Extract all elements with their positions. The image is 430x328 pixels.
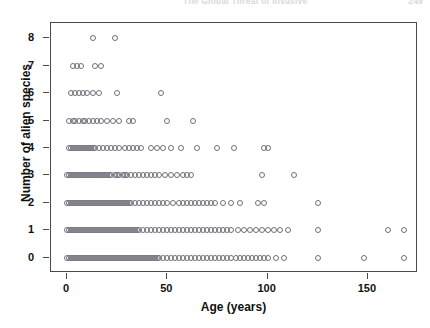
y-tick-mark: [43, 120, 49, 121]
scatter-plot-figure: The Global Threat of Invasive 249 012345…: [0, 0, 430, 328]
x-tick-label: 50: [160, 283, 172, 294]
x-tick-label: 0: [63, 283, 69, 294]
y-tick-mark: [43, 229, 49, 230]
x-tick-mark: [66, 273, 67, 279]
y-tick-mark: [43, 37, 49, 38]
x-axis-title: Age (years): [50, 300, 417, 314]
y-tick-mark: [43, 147, 49, 148]
x-tick-label: 150: [358, 283, 376, 294]
y-tick-mark: [43, 257, 49, 258]
x-tick-label: 100: [257, 283, 275, 294]
y-tick-mark: [43, 174, 49, 175]
y-tick-mark: [43, 92, 49, 93]
axis-decorations: 012345678050100150: [0, 0, 430, 328]
x-tick-mark: [166, 273, 167, 279]
x-tick-mark: [267, 273, 268, 279]
y-axis-title: Number of alien species: [19, 23, 33, 243]
y-tick-mark: [43, 65, 49, 66]
x-tick-mark: [367, 273, 368, 279]
y-tick-label: 0: [12, 251, 34, 262]
y-tick-mark: [43, 202, 49, 203]
